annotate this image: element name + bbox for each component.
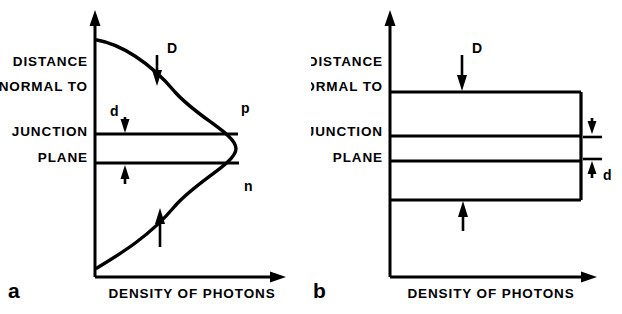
x-axis-a xyxy=(95,272,286,283)
marker-d-arrow-a xyxy=(121,117,130,133)
y-axis-a xyxy=(90,10,101,277)
y-axis-label-line-4: PLANE xyxy=(333,150,383,165)
marker-d-label-b: d xyxy=(603,167,612,183)
panel-b: D d DISTANCE NORMAL TO JUNCTION PLANE DE… xyxy=(311,0,622,314)
marker-D-arrow-a xyxy=(152,55,162,86)
panel-b-figure: D d DISTANCE NORMAL TO JUNCTION PLANE DE… xyxy=(311,0,622,314)
y-axis-label-a: DISTANCE NORMAL TO JUNCTION PLANE xyxy=(0,54,88,165)
junction-up-arrow-a xyxy=(121,165,130,184)
region-label-p-a: p xyxy=(241,100,250,116)
y-axis-label-line-4: PLANE xyxy=(38,150,88,165)
junction-down-arrow-b xyxy=(583,118,602,137)
photon-density-curve-a xyxy=(97,40,236,268)
y-axis-label-line-3: JUNCTION xyxy=(311,124,383,139)
y-axis-label-line-2: NORMAL TO xyxy=(311,79,383,94)
marker-D-arrow-b xyxy=(457,55,467,91)
panel-a: D d p n DISTANCE NORMAL TO JUNCTION PLAN… xyxy=(0,0,311,314)
panel-letter-a: a xyxy=(8,279,20,302)
y-axis-b xyxy=(385,10,396,277)
x-axis-b xyxy=(390,272,597,283)
panel-a-figure: D d p n DISTANCE NORMAL TO JUNCTION PLAN… xyxy=(0,0,311,314)
panel-letter-b: b xyxy=(313,279,326,302)
junction-up-arrow-b xyxy=(583,159,602,178)
photon-density-rect-b xyxy=(390,92,581,200)
region-label-n-a: n xyxy=(244,178,253,194)
y-axis-label-line-3: JUNCTION xyxy=(12,124,88,139)
y-axis-label-line-1: DISTANCE xyxy=(311,54,383,69)
y-axis-label-line-1: DISTANCE xyxy=(13,54,88,69)
marker-D-label-b: D xyxy=(472,40,482,56)
y-axis-label-b: DISTANCE NORMAL TO JUNCTION PLANE xyxy=(311,54,383,165)
marker-D-label-a: D xyxy=(167,40,177,56)
bottom-arrow-b xyxy=(458,201,468,231)
marker-d-label-a: d xyxy=(110,103,119,119)
x-axis-label-b: DENSITY OF PHOTONS xyxy=(407,286,574,301)
x-axis-label-a: DENSITY OF PHOTONS xyxy=(108,286,275,301)
y-axis-label-line-2: NORMAL TO xyxy=(0,79,88,94)
